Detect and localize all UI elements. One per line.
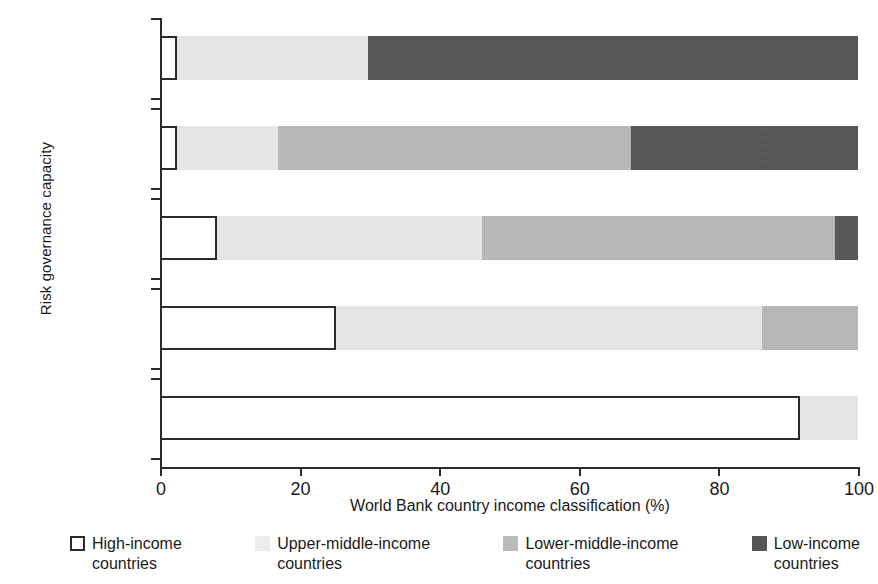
bar-segment-upper-middle-income	[177, 36, 368, 80]
upper-middle-income-swatch	[255, 536, 270, 551]
bar-row	[160, 126, 858, 170]
y-axis-tick	[151, 108, 160, 110]
bar-segment-high-income	[160, 306, 336, 350]
bar-row	[160, 306, 858, 350]
y-axis-tick	[151, 378, 160, 380]
low-income-swatch	[752, 536, 767, 551]
x-axis-tick-label: 0	[131, 479, 191, 500]
x-axis-tick	[439, 467, 441, 476]
bar-segment-low-income	[835, 216, 858, 260]
x-axis-tick	[579, 467, 581, 476]
legend-label: Low-income countries	[774, 534, 860, 574]
y-axis-tick	[151, 18, 160, 20]
x-axis-tick	[858, 467, 860, 476]
legend-item[interactable]: Low-income countries	[752, 534, 860, 574]
bar-segment-upper-middle-income	[800, 396, 858, 440]
high-income-swatch	[70, 536, 85, 551]
bar-row	[160, 36, 858, 80]
bar-segment-upper-middle-income	[336, 306, 762, 350]
x-axis-tick-label: 20	[271, 479, 331, 500]
chart-legend: High-income countriesUpper-middle-income…	[70, 534, 860, 574]
y-axis-tick	[151, 368, 160, 370]
bar-segment-high-income	[160, 126, 177, 170]
bar-row	[160, 396, 858, 440]
bar-segment-lower-middle-income	[762, 306, 858, 350]
bar-segment-lower-middle-income	[482, 216, 835, 260]
y-axis-tick	[151, 278, 160, 280]
legend-item[interactable]: Lower-middle-income countries	[503, 534, 678, 574]
legend-item[interactable]: Upper-middle-income countries	[255, 534, 430, 574]
bar-row	[160, 216, 858, 260]
legend-label: High-income countries	[92, 534, 182, 574]
bar-segment-low-income	[368, 36, 858, 80]
y-axis-tick	[151, 188, 160, 190]
bar-segment-lower-middle-income	[278, 126, 631, 170]
x-axis-line	[160, 467, 860, 469]
x-axis-tick-label: 100	[829, 479, 878, 500]
legend-label: Lower-middle-income countries	[525, 534, 678, 574]
y-axis-tick	[151, 458, 160, 460]
x-axis-tick	[160, 467, 162, 476]
bar-segment-upper-middle-income	[177, 126, 278, 170]
x-axis-tick	[300, 467, 302, 476]
legend-item[interactable]: High-income countries	[70, 534, 182, 574]
x-axis-title: World Bank country income classification…	[160, 497, 860, 515]
bar-segment-low-income	[631, 126, 858, 170]
bar-segment-upper-middle-income	[217, 216, 482, 260]
y-axis-tick	[151, 198, 160, 200]
x-axis-tick-label: 60	[550, 479, 610, 500]
x-axis-tick-label: 80	[689, 479, 749, 500]
y-axis-tick	[151, 98, 160, 100]
bar-segment-high-income	[160, 216, 217, 260]
y-axis-title: Risk governance capacity	[37, 79, 54, 379]
plot-area: LowcapacityMedium-lowcapacityMediumcapac…	[160, 18, 858, 467]
x-axis-tick-label: 40	[410, 479, 470, 500]
lower-middle-income-swatch	[503, 536, 518, 551]
legend-label: Upper-middle-income countries	[277, 534, 430, 574]
x-axis-tick	[718, 467, 720, 476]
bar-segment-high-income	[160, 396, 800, 440]
y-axis-tick	[151, 288, 160, 290]
bar-segment-high-income	[160, 36, 177, 80]
